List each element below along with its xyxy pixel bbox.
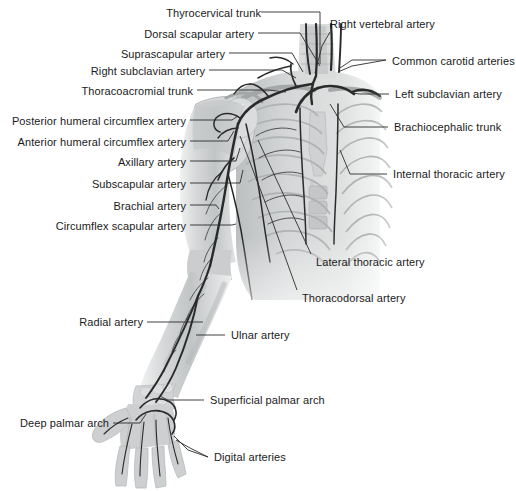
label-circumflex-scapular-artery: Circumflex scapular artery xyxy=(0,221,186,232)
label-common-carotid-arteries: Common carotid arteries xyxy=(392,56,515,67)
label-axillary-artery: Axillary artery xyxy=(0,157,186,168)
label-subscapular-artery: Subscapular artery xyxy=(0,179,186,190)
label-thoracodorsal-artery: Thoracodorsal artery xyxy=(302,293,406,304)
label-dorsal-scapular-artery: Dorsal scapular artery xyxy=(0,29,254,40)
anatomy-figure: Thyrocervical trunk Dorsal scapular arte… xyxy=(0,0,516,491)
label-digital-arteries: Digital arteries xyxy=(214,452,286,463)
label-thyrocervical-trunk: Thyrocervical trunk xyxy=(0,8,261,19)
label-left-subclavian-artery: Left subclavian artery xyxy=(395,89,502,100)
label-suprascapular-artery: Suprascapular artery xyxy=(0,49,225,60)
label-radial-artery: Radial artery xyxy=(0,317,143,328)
label-deep-palmar-arch: Deep palmar arch xyxy=(0,418,109,429)
label-lateral-thoracic-artery: Lateral thoracic artery xyxy=(316,257,425,268)
label-right-vertebral-artery: Right vertebral artery xyxy=(330,19,435,30)
label-internal-thoracic-artery: Internal thoracic artery xyxy=(393,169,505,180)
label-brachial-artery: Brachial artery xyxy=(0,201,186,212)
label-superficial-palmar-arch: Superficial palmar arch xyxy=(210,395,325,406)
label-thoracoacromial-trunk: Thoracoacromial trunk xyxy=(0,86,193,97)
label-ulnar-artery: Ulnar artery xyxy=(231,330,290,341)
label-posterior-humeral-circumflex-artery: Posterior humeral circumflex artery xyxy=(0,116,186,127)
label-right-subclavian-artery: Right subclavian artery xyxy=(0,66,205,77)
label-brachiocephalic-trunk: Brachiocephalic trunk xyxy=(394,122,501,133)
label-anterior-humeral-circumflex-artery: Anterior humeral circumflex artery xyxy=(0,137,186,148)
